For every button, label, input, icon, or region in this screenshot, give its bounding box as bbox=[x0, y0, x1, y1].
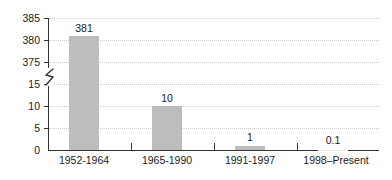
bar-chart: 385 380 375 15 10 5 0 381 10 1 0.1 1952-… bbox=[0, 0, 392, 180]
bar-value-1952-1964: 381 bbox=[64, 23, 104, 34]
y-axis-label-375: 375 bbox=[6, 57, 40, 68]
x-axis-label-1965-1990: 1965-1990 bbox=[137, 155, 197, 166]
y-tick-10 bbox=[44, 106, 49, 107]
bar-1952-1964 bbox=[69, 36, 99, 150]
bar-1998-present bbox=[318, 150, 348, 151]
y-axis-label-10: 10 bbox=[6, 101, 40, 112]
y-tick-380 bbox=[44, 40, 49, 41]
bar-1965-1990 bbox=[152, 106, 182, 150]
x-tick-boundary-2 bbox=[214, 143, 215, 151]
bar-1991-1997 bbox=[235, 146, 265, 150]
y-tick-375 bbox=[44, 62, 49, 63]
x-axis-label-1991-1997: 1991-1997 bbox=[220, 155, 280, 166]
y-axis-label-0: 0 bbox=[6, 145, 40, 156]
y-tick-385 bbox=[44, 18, 49, 19]
y-axis-label-385: 385 bbox=[6, 13, 40, 24]
bar-value-1991-1997: 1 bbox=[230, 132, 270, 143]
gridline-385 bbox=[49, 18, 379, 19]
y-axis-label-5: 5 bbox=[6, 123, 40, 134]
y-axis-label-15: 15 bbox=[6, 79, 40, 90]
y-axis-label-380: 380 bbox=[6, 35, 40, 46]
x-tick-boundary-3 bbox=[297, 143, 298, 151]
axis-break-zigzag-icon bbox=[41, 68, 57, 86]
y-tick-5 bbox=[44, 128, 49, 129]
x-tick-boundary-1 bbox=[131, 143, 132, 151]
x-axis-label-1998-present: 1998–Present bbox=[298, 155, 374, 166]
bar-value-1998-present: 0.1 bbox=[313, 135, 353, 146]
bar-value-1965-1990: 10 bbox=[147, 93, 187, 104]
x-axis-label-1952-1964: 1952-1964 bbox=[54, 155, 114, 166]
